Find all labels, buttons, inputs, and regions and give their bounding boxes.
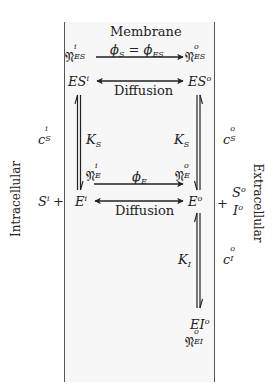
- membrane-outer-boundary: [214, 22, 215, 382]
- extracellular-label: Extracellular: [251, 163, 265, 242]
- node-ei-o: EIo: [190, 318, 209, 331]
- diffusion-e-label: Diffusion: [115, 204, 174, 217]
- conc-c-i-o: coI: [223, 253, 246, 266]
- rate-ks-right: KS: [174, 133, 189, 146]
- rate-ks-left: KS: [86, 133, 101, 146]
- node-e-o: Eo: [188, 195, 202, 208]
- node-n-ei-o: 𝔑oEI: [185, 336, 210, 349]
- node-es-i: ESi: [68, 75, 89, 88]
- node-s-i: Si: [38, 195, 49, 208]
- node-es-o: ESo: [188, 75, 211, 88]
- node-s-o: So: [232, 186, 246, 199]
- flux-e-label: ϕE: [132, 170, 147, 183]
- flux-es-label: ϕS = ϕES: [110, 43, 164, 56]
- membrane-inner-boundary: [64, 22, 65, 382]
- node-e-i: Ei: [75, 195, 87, 208]
- plus-right: +: [217, 197, 228, 210]
- node-n-e-i: 𝔑iE: [86, 170, 111, 183]
- node-n-es-o: 𝔑oES: [185, 51, 210, 64]
- intracellular-label: Intracellular: [9, 161, 23, 237]
- plus-left: +: [53, 195, 64, 208]
- membrane-title: Membrane: [110, 25, 182, 38]
- node-n-e-o: 𝔑oE: [175, 170, 200, 183]
- node-i-o: Io: [233, 204, 243, 217]
- node-n-es-i: 𝔑iES: [65, 51, 90, 64]
- conc-c-s-i: ciS: [38, 133, 61, 146]
- rate-ki: KI: [178, 253, 191, 266]
- diffusion-es-label: Diffusion: [114, 84, 173, 97]
- conc-c-s-o: coS: [223, 133, 246, 146]
